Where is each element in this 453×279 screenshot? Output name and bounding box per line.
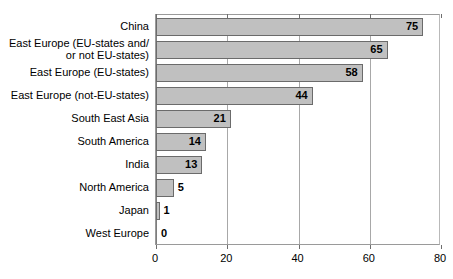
bar-row[interactable]: 0 (156, 225, 157, 243)
bar-row[interactable]: 1 (156, 202, 160, 220)
tick-top-80 (441, 14, 442, 18)
bar-row[interactable]: 58 (156, 64, 363, 82)
category-label: West Europe (0, 227, 152, 239)
tick-bottom-60 (370, 245, 371, 249)
bar-value-label: 5 (178, 181, 184, 194)
tick-bottom-0 (156, 245, 157, 249)
bar[interactable] (156, 87, 313, 105)
bar-row[interactable]: 44 (156, 87, 313, 105)
bar-value-label: 0 (161, 227, 167, 240)
bar-value-label: 13 (185, 158, 197, 171)
category-label: North America (0, 181, 152, 193)
category-label: East Europe (EU-states and/ or not EU-st… (0, 37, 152, 61)
bar-value-label: 1 (164, 204, 170, 217)
bar-row[interactable]: 13 (156, 156, 202, 174)
plot-area: 75655844211413510 (155, 14, 440, 245)
category-label: China (0, 20, 152, 32)
bar-row[interactable]: 14 (156, 133, 206, 151)
tick-bottom-80 (441, 245, 442, 249)
x-tick-label: 80 (434, 252, 446, 265)
x-tick-label: 0 (152, 252, 158, 265)
bar[interactable] (156, 41, 388, 59)
x-tick-label: 40 (291, 252, 303, 265)
bar[interactable] (156, 179, 174, 197)
category-label: East Europe (EU-states) (0, 66, 152, 78)
bar-row[interactable]: 21 (156, 110, 231, 128)
bar-chart: ChinaEast Europe (EU-states and/ or not … (0, 0, 453, 279)
bar[interactable] (156, 202, 160, 220)
category-label: East Europe (not-EU-states) (0, 89, 152, 101)
x-tick-label: 20 (220, 252, 232, 265)
category-label: South East Asia (0, 112, 152, 124)
tick-bottom-40 (299, 245, 300, 249)
x-axis-tick-labels: 020406080 (155, 252, 440, 268)
category-label: Japan (0, 204, 152, 216)
tick-bottom-20 (227, 245, 228, 249)
bar[interactable] (156, 64, 363, 82)
bar-row[interactable]: 75 (156, 18, 423, 36)
category-label: South America (0, 135, 152, 147)
bar[interactable] (156, 18, 423, 36)
bar-value-label: 58 (345, 66, 357, 79)
category-axis-labels: ChinaEast Europe (EU-states and/ or not … (0, 14, 152, 245)
x-tick-label: 60 (363, 252, 375, 265)
bar-value-label: 14 (189, 135, 201, 148)
bar-value-label: 65 (370, 43, 382, 56)
category-label: India (0, 158, 152, 170)
bar-row[interactable]: 5 (156, 179, 174, 197)
bar-row[interactable]: 65 (156, 41, 388, 59)
bar-value-label: 21 (214, 112, 226, 125)
bar-value-label: 75 (406, 20, 418, 33)
bar-value-label: 44 (296, 89, 308, 102)
